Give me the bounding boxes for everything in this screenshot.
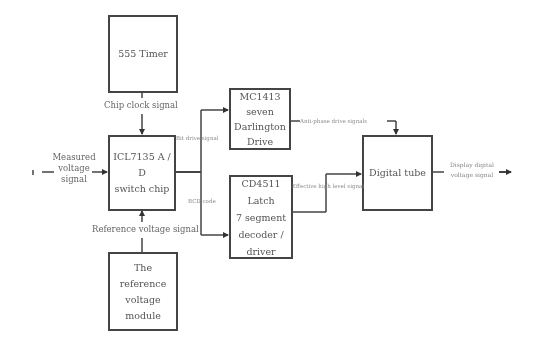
bcd-code-label: BCD code [188,198,216,205]
darlington-label: MC1413 seven Darlington Drive [231,89,289,149]
clock-signal-label: Chip clock signal [104,100,178,111]
timer-label: 555 Timer [118,46,168,62]
display-output-label: Display digital voltage signal [446,160,498,180]
digital-tube-label: Digital tube [369,165,426,181]
anti-phase-signal-label: Anti-phase drive signals [300,118,367,125]
timer-block: 555 Timer [108,15,178,93]
adc-label: ICL7135 A / D switch chip [110,149,174,197]
darlington-block: MC1413 seven Darlington Drive [229,88,291,150]
block-diagram: 555 Timer ICL7135 A / D switch chip MC14… [0,0,542,345]
bit-drive-signal-label: Bit drive signal [176,135,218,142]
reference-label: The reference voltage module [110,260,176,324]
latch-block: CD4511 Latch 7 segment decoder / driver [229,175,293,259]
effective-high-signal-label: Effective high level signal [292,183,364,190]
latch-label: CD4511 Latch 7 segment decoder / driver [231,175,291,260]
adc-block: ICL7135 A / D switch chip [108,135,176,211]
digital-tube-block: Digital tube [362,135,433,211]
reference-signal-label: Reference voltage signal [92,224,199,235]
reference-block: The reference voltage module [108,252,178,331]
measured-signal-label: Measured voltage signal [52,152,96,185]
